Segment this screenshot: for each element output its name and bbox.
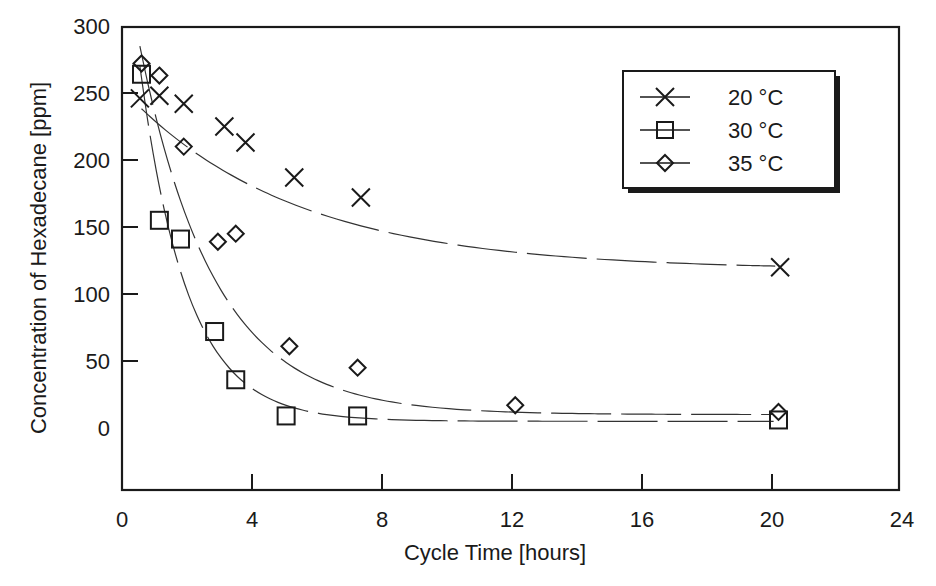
x-marker-icon (215, 118, 233, 136)
square-marker-icon (172, 231, 189, 248)
legend-label: 20 °C (728, 85, 783, 110)
x-axis-ticks: 04812162024 (116, 474, 914, 532)
y-tick-label: 250 (73, 81, 110, 106)
x-marker-icon (771, 258, 789, 276)
y-tick-label: 50 (86, 349, 110, 374)
x-tick-label: 12 (500, 507, 524, 532)
x-axis-title: Cycle Time [hours] (404, 540, 586, 565)
x-marker-icon (237, 134, 255, 152)
y-tick-label: 300 (73, 14, 110, 39)
diamond-marker-icon (281, 338, 297, 354)
diamond-marker-icon (134, 56, 150, 72)
x-marker-icon (352, 189, 370, 207)
diamond-marker-icon (151, 68, 167, 84)
y-axis-title: Concentration of Hexadecane [ppm] (26, 82, 51, 434)
square-marker-icon (206, 323, 223, 340)
x-tick-label: 16 (630, 507, 654, 532)
x-tick-label: 4 (246, 507, 258, 532)
x-tick-label: 0 (116, 507, 128, 532)
y-tick-label: 150 (73, 215, 110, 240)
x-marker-icon (175, 95, 193, 113)
y-tick-label: 200 (73, 148, 110, 173)
x-tick-label: 20 (760, 507, 784, 532)
x-tick-label: 24 (890, 507, 914, 532)
chart: 04812162024 050100150200250300 Cycle Tim… (0, 0, 936, 586)
x-marker-icon (150, 87, 168, 105)
legend: 20 °C30 °C35 °C (623, 71, 840, 193)
y-axis-ticks: 050100150200250300 (73, 14, 138, 441)
x-marker-icon (285, 168, 303, 186)
diamond-marker-icon (210, 234, 226, 250)
diamond-marker-icon (228, 226, 244, 242)
diamond-marker-icon (176, 139, 192, 155)
square-marker-icon (349, 407, 366, 424)
y-tick-label: 100 (73, 282, 110, 307)
x-tick-label: 8 (376, 507, 388, 532)
diamond-marker-icon (350, 360, 366, 376)
legend-label: 35 °C (728, 151, 783, 176)
legend-label: 30 °C (728, 118, 783, 143)
y-tick-label: 0 (98, 416, 110, 441)
diamond-marker-icon (507, 397, 523, 413)
square-marker-icon (278, 407, 295, 424)
